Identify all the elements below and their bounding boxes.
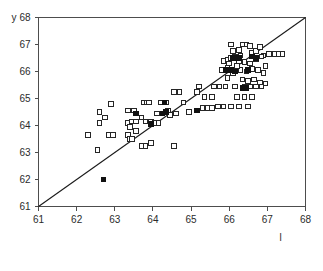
x-tick-label: 64 xyxy=(147,214,159,225)
x-tick-label: 63 xyxy=(109,214,121,225)
data-point xyxy=(143,119,148,124)
data-points-layer xyxy=(86,42,285,182)
data-point xyxy=(221,104,226,109)
data-point xyxy=(227,61,232,66)
x-tick-label: 67 xyxy=(262,214,274,225)
data-point xyxy=(154,111,159,116)
x-tick-label: 68 xyxy=(300,214,312,225)
y-tick-label: 68 xyxy=(19,12,31,23)
data-point xyxy=(202,95,207,100)
series-filled-squares xyxy=(101,54,258,181)
plot-canvas: 61626364656667686162636465666768yl xyxy=(0,0,323,271)
data-point xyxy=(194,89,199,94)
data-point xyxy=(223,68,228,73)
y-tick-label: 62 xyxy=(19,174,31,185)
data-point xyxy=(133,111,138,116)
data-point xyxy=(259,54,264,59)
data-point xyxy=(242,60,247,65)
data-point xyxy=(133,119,138,124)
x-tick-label: 61 xyxy=(33,214,45,225)
scatter-plot-figure: 61626364656667686162636465666768yl xyxy=(0,0,323,271)
data-point xyxy=(244,85,249,90)
data-point xyxy=(231,49,236,54)
data-point xyxy=(177,89,182,94)
y-tick-label: 64 xyxy=(19,120,31,131)
data-point xyxy=(164,110,169,115)
data-point xyxy=(263,64,268,69)
data-point xyxy=(248,44,253,49)
data-point xyxy=(254,84,259,89)
data-point xyxy=(217,84,222,89)
data-point xyxy=(257,45,262,50)
y-tick-label: 66 xyxy=(19,66,31,77)
data-point xyxy=(147,100,152,105)
data-point xyxy=(149,122,154,127)
data-point xyxy=(254,56,259,61)
data-point xyxy=(223,84,228,89)
y-tick-label: 61 xyxy=(19,201,31,212)
data-point xyxy=(233,84,238,89)
y-tick-label: 63 xyxy=(19,147,31,158)
data-point xyxy=(194,108,199,113)
data-point xyxy=(231,56,236,61)
data-point xyxy=(200,106,205,111)
data-point xyxy=(215,104,220,109)
data-point xyxy=(261,71,266,76)
data-point xyxy=(236,56,241,61)
data-point xyxy=(248,61,253,66)
x-tick-label: 62 xyxy=(71,214,83,225)
data-point xyxy=(101,177,106,182)
data-point xyxy=(181,100,186,105)
axis-labels-layer: 61626364656667686162636465666768yl xyxy=(12,12,312,242)
data-point xyxy=(133,129,138,134)
x-axis-title: l xyxy=(280,232,282,243)
data-point xyxy=(174,111,179,116)
data-point xyxy=(111,133,116,138)
data-point xyxy=(109,102,114,107)
data-point xyxy=(233,69,238,74)
data-point xyxy=(128,125,133,130)
y-tick-label: 67 xyxy=(19,39,31,50)
data-point xyxy=(246,79,251,84)
data-point xyxy=(280,52,285,57)
data-point xyxy=(97,110,102,115)
data-point xyxy=(97,121,102,126)
data-point xyxy=(172,89,177,94)
data-point xyxy=(256,68,261,73)
data-point xyxy=(196,84,201,89)
y-axis-title: y xyxy=(12,12,17,23)
data-point xyxy=(156,121,161,126)
x-tick-label: 66 xyxy=(224,214,236,225)
data-point xyxy=(130,137,135,142)
data-point xyxy=(246,104,251,109)
data-point xyxy=(242,95,247,100)
data-point xyxy=(212,84,217,89)
data-point xyxy=(250,95,255,100)
data-point xyxy=(162,100,167,105)
data-point xyxy=(103,115,108,120)
data-point xyxy=(210,106,215,111)
data-point xyxy=(236,104,241,109)
data-point xyxy=(229,104,234,109)
data-point xyxy=(95,148,100,153)
x-tick-label: 65 xyxy=(186,214,198,225)
data-point xyxy=(149,141,154,146)
data-point xyxy=(143,143,148,148)
data-point xyxy=(225,76,230,81)
data-point xyxy=(259,84,264,89)
data-point xyxy=(246,68,251,73)
data-point xyxy=(252,77,257,82)
data-point xyxy=(172,143,177,148)
data-point xyxy=(210,95,215,100)
y-tick-label: 65 xyxy=(19,93,31,104)
data-point xyxy=(86,133,91,138)
data-point xyxy=(187,110,192,115)
data-point xyxy=(235,95,240,100)
data-point xyxy=(236,48,241,53)
data-point xyxy=(235,64,240,69)
data-point xyxy=(240,77,245,82)
data-point xyxy=(267,52,272,57)
data-point xyxy=(229,42,234,47)
data-point xyxy=(126,108,131,113)
